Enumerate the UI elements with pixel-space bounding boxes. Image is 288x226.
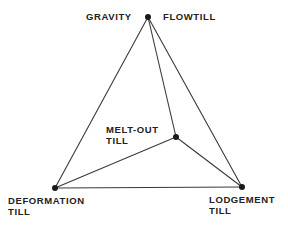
edge-top-meltout bbox=[148, 17, 176, 137]
label-meltout-line1: MELT-OUT bbox=[106, 124, 159, 135]
label-deformation-line2: TILL bbox=[8, 206, 85, 217]
label-lodgement-till: LODGEMENT TILL bbox=[209, 194, 275, 216]
vertex-lodgement-till bbox=[239, 184, 245, 190]
label-meltout-line2: TILL bbox=[106, 135, 159, 146]
label-deformation-till: DEFORMATION TILL bbox=[8, 195, 85, 217]
edge-top-lodgement bbox=[148, 17, 242, 187]
vertex-gravity-flowtill bbox=[145, 14, 151, 20]
label-lodgement-line1: LODGEMENT bbox=[209, 194, 275, 205]
label-lodgement-line2: TILL bbox=[209, 205, 275, 216]
label-gravity: GRAVITY bbox=[86, 11, 132, 22]
edge-top-deformation bbox=[55, 17, 148, 188]
vertex-melt-out-till bbox=[173, 134, 179, 140]
label-gravity-text: GRAVITY bbox=[86, 11, 132, 22]
label-deformation-line1: DEFORMATION bbox=[8, 195, 85, 206]
label-flowtill: FLOWTILL bbox=[163, 11, 216, 22]
label-flowtill-text: FLOWTILL bbox=[163, 11, 216, 22]
edge-meltout-lodgement bbox=[176, 137, 242, 187]
vertex-deformation-till bbox=[52, 185, 58, 191]
till-tetrahedron-diagram bbox=[0, 0, 288, 226]
edge-deformation-lodgement bbox=[55, 187, 242, 188]
label-melt-out-till: MELT-OUT TILL bbox=[106, 124, 159, 146]
